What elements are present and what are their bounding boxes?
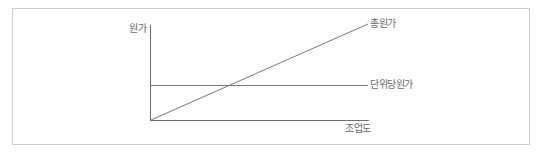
y-axis-label: 원가 bbox=[129, 23, 146, 35]
total-cost-label: 총원가 bbox=[370, 18, 396, 30]
unit-cost-label: 단위당원가 bbox=[370, 79, 413, 91]
total-cost-line bbox=[151, 24, 368, 120]
cost-behavior-chart bbox=[0, 0, 538, 157]
x-axis-label: 조업도 bbox=[345, 123, 371, 135]
